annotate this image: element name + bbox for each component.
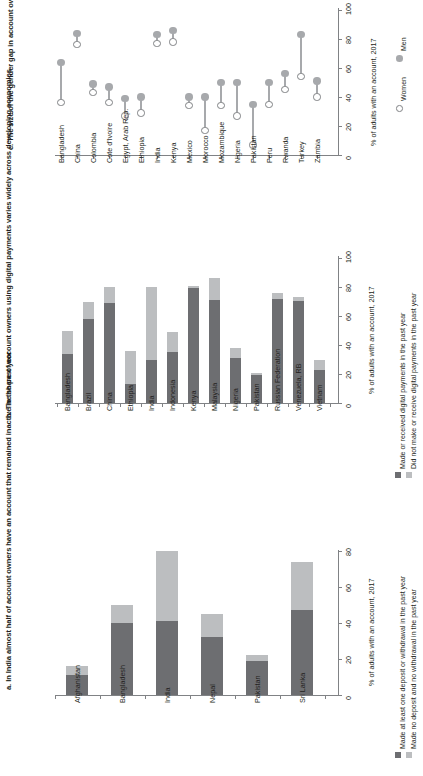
legend-swatch-active-account <box>395 752 401 758</box>
legend-swatch-no-digital <box>406 472 412 478</box>
legend-label-made-digital: Made or received digital payments in the… <box>399 313 408 469</box>
panel-c-tick-label: 40 <box>345 94 354 102</box>
panel-c-legend: Women Men <box>388 0 423 190</box>
panel-a-tick-label: 60 <box>345 584 354 592</box>
panel-b-tick-label: 0 <box>345 404 354 408</box>
legend-marker-women <box>396 105 403 112</box>
panel-c-tick-label: 80 <box>345 36 354 44</box>
panel-a-tick-label: 20 <box>345 656 354 664</box>
panel-b-tick-label: 20 <box>345 371 354 379</box>
legend-label-women: Women <box>400 77 409 101</box>
legend-swatch-made-digital <box>395 472 401 478</box>
panel-c-tick-label: 0 <box>345 156 354 160</box>
panel-c-tick-label: 20 <box>345 123 354 131</box>
figure-root: { "figure": { "orientation": "rotated-90… <box>0 0 423 776</box>
panel-c-axis-title: % of adults with an account, 2017 <box>370 39 379 146</box>
legend-label-active-account: Made at least one deposit or withdrawal … <box>399 576 408 749</box>
legend-label-no-digital: Did not make or receive digital payments… <box>410 293 419 469</box>
panel-a-tick-label: 0 <box>345 696 354 700</box>
panel-c: c. The size of the gender gap in account… <box>0 0 423 190</box>
panel-b-tick-label: 60 <box>345 313 354 321</box>
panel-a-tick-label: 40 <box>345 620 354 628</box>
panel-b-tick-label: 100 <box>345 251 354 263</box>
panel-b-legend: Made or received digital payments in the… <box>386 248 423 496</box>
panel-a-tick-labels: 020406080 <box>0 520 423 776</box>
legend-label-men: Men <box>400 37 409 51</box>
legend-marker-men <box>396 55 403 62</box>
panel-c-tick-labels: 020406080100 <box>0 0 423 190</box>
panel-b-axis-title: % of adults with an account, 2017 <box>368 287 377 394</box>
panel-a-axis-title: % of adults with an account, 2017 <box>368 579 377 686</box>
panel-a-legend: Made at least one deposit or withdrawal … <box>386 520 423 776</box>
panel-a: a. In India almost half of account owner… <box>0 520 423 776</box>
legend-label-inactive-account: Made no deposit and no withdrawal in the… <box>410 589 419 749</box>
panel-c-tick-label: 60 <box>345 65 354 73</box>
panel-c-tick-label: 100 <box>345 3 354 15</box>
legend-swatch-inactive-account <box>406 752 412 758</box>
panel-b-tick-labels: 020406080100 <box>0 248 423 496</box>
panel-b: b. The share of account owners using dig… <box>0 248 423 496</box>
panel-b-tick-label: 40 <box>345 342 354 350</box>
panel-b-tick-label: 80 <box>345 284 354 292</box>
panel-a-tick-label: 80 <box>345 548 354 556</box>
